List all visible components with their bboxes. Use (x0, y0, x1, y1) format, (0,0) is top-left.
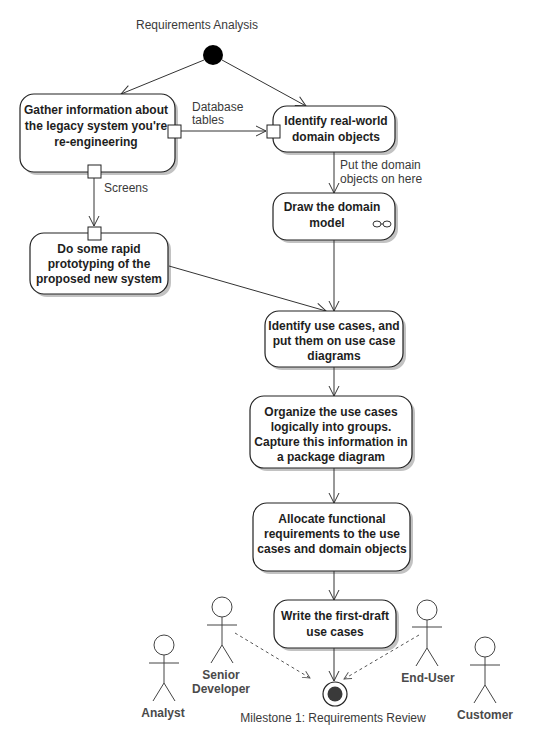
edge-initial-to-gather (121, 60, 204, 94)
svg-text:logically into groups.: logically into groups. (271, 420, 392, 434)
svg-text:Organize the use cases: Organize the use cases (264, 405, 398, 419)
input-pin-screens[interactable] (88, 227, 101, 240)
output-pin-screens[interactable] (88, 165, 101, 178)
action-gather-information[interactable]: Gather information about the legacy syst… (20, 94, 178, 175)
action-organize-use-cases[interactable]: Organize the use cases logically into gr… (250, 396, 415, 471)
svg-text:a package diagram: a package diagram (277, 450, 385, 464)
actor-senior-developer[interactable] (207, 597, 237, 663)
input-pin-database-tables[interactable] (267, 125, 280, 138)
edge-label-tables: tables (192, 113, 224, 127)
initial-node[interactable] (203, 45, 223, 65)
svg-text:cases and domain objects: cases and domain objects (257, 542, 407, 556)
activity-final-node[interactable] (323, 682, 347, 706)
svg-text:Allocate functional: Allocate functional (278, 512, 385, 526)
action-write-first-draft[interactable]: Write the first-draft use cases (274, 600, 399, 651)
svg-text:diagrams: diagrams (307, 349, 361, 363)
edge-prototype-to-use-cases (169, 266, 326, 311)
edge-label-database: Database (192, 100, 244, 114)
actor-label-end-user: End-User (401, 671, 455, 685)
svg-text:use cases: use cases (306, 625, 364, 639)
svg-text:Capture this information in: Capture this information in (254, 435, 407, 449)
activity-diagram: Requirements Analysis Gather information… (0, 0, 533, 740)
actor-label-senior: Senior (202, 668, 240, 682)
edge-label-put-domain-1: Put the domain (340, 158, 421, 172)
diagram-title: Requirements Analysis (136, 18, 258, 32)
output-pin-database-tables[interactable] (168, 125, 181, 138)
svg-text:Identify use cases, and: Identify use cases, and (268, 319, 399, 333)
actor-analyst[interactable] (149, 635, 179, 701)
svg-text:put them on use case: put them on use case (273, 334, 396, 348)
actor-customer[interactable] (470, 637, 500, 703)
svg-text:the legacy system you're: the legacy system you're (25, 119, 168, 133)
actor-label-customer: Customer (457, 708, 513, 722)
svg-text:domain objects: domain objects (292, 130, 380, 144)
action-draw-domain-model[interactable]: Draw the domain model (273, 193, 398, 243)
action-allocate-requirements[interactable]: Allocate functional requirements to the … (253, 503, 413, 574)
action-rapid-prototyping[interactable]: Do some rapid prototyping of the propose… (30, 233, 171, 297)
actor-label-developer: Developer (192, 682, 250, 696)
svg-text:requirements to the use: requirements to the use (264, 527, 400, 541)
svg-text:Gather information about: Gather information about (24, 103, 168, 117)
action-identify-use-cases[interactable]: Identify use cases, and put them on use … (265, 311, 406, 370)
final-node-label: Milestone 1: Requirements Review (240, 711, 426, 725)
svg-text:model: model (309, 216, 344, 230)
svg-text:re-engineering: re-engineering (54, 135, 137, 149)
actor-label-analyst: Analyst (141, 706, 184, 720)
edge-label-screens: Screens (104, 181, 148, 195)
svg-text:Draw the domain: Draw the domain (284, 200, 381, 214)
edge-label-put-domain-2: objects on here (340, 172, 422, 186)
svg-text:Identify real-world: Identify real-world (284, 114, 387, 128)
svg-text:prototyping of the: prototyping of the (48, 257, 151, 271)
svg-text:Do some rapid: Do some rapid (57, 242, 140, 256)
action-identify-domain-objects[interactable]: Identify real-world domain objects (273, 106, 398, 155)
svg-text:Write the first-draft: Write the first-draft (281, 609, 389, 623)
actor-end-user[interactable] (412, 600, 442, 666)
svg-text:proposed new system: proposed new system (36, 272, 162, 286)
